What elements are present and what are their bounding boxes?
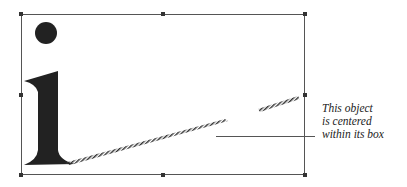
caption-line-2: is centered: [322, 115, 384, 128]
callout-leader-line: [216, 136, 315, 137]
caption-line-1: This object: [322, 102, 384, 115]
caption: This object is centered within its box: [322, 102, 384, 141]
letter-i-glyph: [0, 0, 407, 187]
caption-line-3: within its box: [322, 128, 384, 141]
